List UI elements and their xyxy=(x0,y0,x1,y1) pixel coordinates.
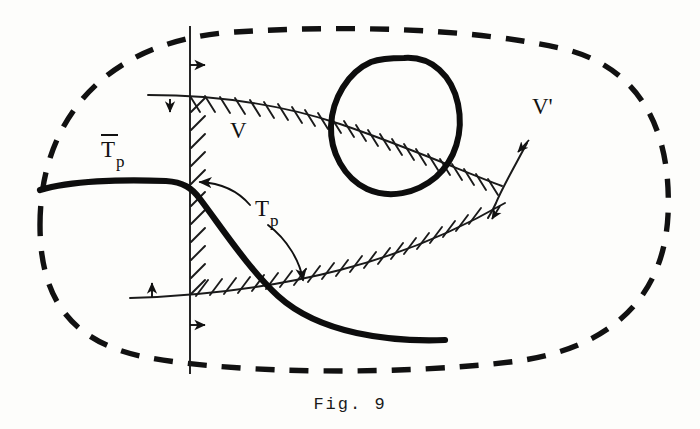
label-region-v: V xyxy=(230,118,247,143)
label-t-bar-p-base: T xyxy=(101,137,115,162)
figure-svg-canvas: T p T p V V' Fig. 9 xyxy=(0,0,700,429)
thick-closed-oval xyxy=(331,58,460,194)
lower-boundary-curve xyxy=(130,203,505,298)
lower-boundary-stroke xyxy=(130,203,505,298)
label-t-bar-p: T p xyxy=(101,135,125,171)
closed-oval-stroke xyxy=(331,58,460,194)
curved-arrow-left-tbar xyxy=(200,182,250,205)
label-t-p: T p xyxy=(255,196,279,230)
figure-container: T p T p V V' Fig. 9 xyxy=(0,0,700,429)
outer-dashed-boundary xyxy=(40,29,668,371)
dashed-region-outline xyxy=(40,29,668,371)
tbar-leader-arrow xyxy=(200,182,250,205)
label-t-p-subscript: p xyxy=(270,211,279,230)
v-prime-tangent-line xyxy=(488,140,529,219)
label-t-bar-p-subscript: p xyxy=(116,152,125,171)
tp-leader-arrow xyxy=(268,225,303,280)
thick-transversal-curve xyxy=(40,180,445,340)
upper-boundary-curve xyxy=(148,95,502,195)
label-region-v-prime: V' xyxy=(532,94,553,119)
upper-boundary-hatching xyxy=(190,96,498,195)
label-t-p-base: T xyxy=(255,196,269,221)
figure-caption: Fig. 9 xyxy=(313,395,386,414)
v-prime-line-stroke xyxy=(488,143,527,218)
curved-arrow-down-tp xyxy=(268,225,303,280)
thick-curve-stroke xyxy=(40,180,445,340)
